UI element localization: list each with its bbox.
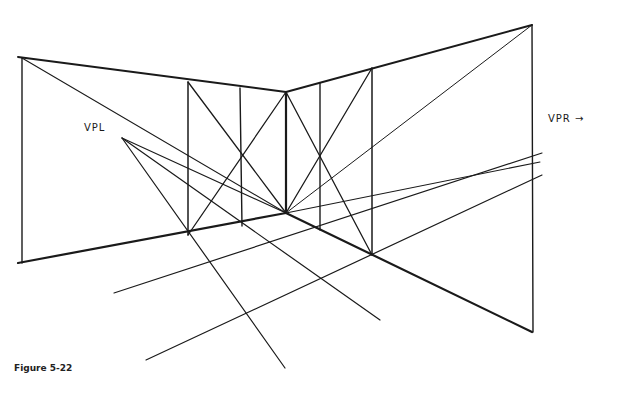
left-wall-top-edge [18,57,286,92]
right-panel-diagonal-2 [286,68,372,213]
left-panel-diagonal-1 [188,82,286,213]
right-wall-top-edge [286,25,532,92]
vanishing-point-left-label: VPL [84,122,105,133]
perspective-drawing [0,0,624,398]
left-wall-long-diagonal [22,58,286,213]
vpl-line-3 [122,138,286,213]
right-wall-long-diagonal [286,25,532,213]
vanishing-point-right-label: VPR → [548,113,584,124]
left-wall-bottom-edge [18,213,286,263]
vpr-floor-line-3 [286,162,540,213]
right-wall-bottom-edge [286,213,532,332]
figure-caption: Figure 5-22 [14,363,72,373]
right-wall-right-edge [532,25,533,332]
right-panel-diagonal-1 [286,92,372,255]
